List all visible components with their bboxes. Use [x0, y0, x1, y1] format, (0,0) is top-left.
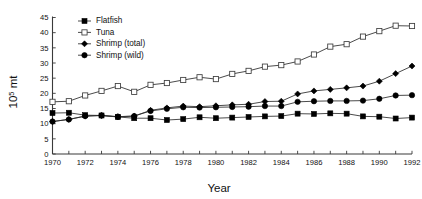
data-point	[197, 115, 202, 120]
data-point	[344, 111, 349, 116]
data-point	[279, 103, 284, 108]
y-axis-title: 105 mt	[7, 75, 20, 109]
data-point	[197, 75, 202, 80]
data-point	[311, 111, 316, 116]
x-tick-label: 1976	[142, 158, 159, 167]
data-point	[295, 111, 300, 116]
data-point	[328, 44, 333, 49]
data-point	[115, 83, 120, 88]
x-tick-label: 1974	[109, 158, 126, 167]
data-point	[360, 114, 365, 119]
data-point	[344, 98, 349, 103]
data-point	[409, 92, 414, 97]
data-point	[181, 105, 186, 110]
data-point	[246, 104, 251, 109]
legend-label: Flatfish	[96, 16, 123, 25]
legend-label: Tuna	[96, 28, 115, 37]
y-tick-label: 40	[40, 28, 48, 37]
data-point	[377, 29, 382, 34]
data-point	[328, 111, 333, 116]
data-point	[197, 105, 202, 110]
data-point	[393, 93, 398, 98]
data-point	[262, 114, 267, 119]
data-point	[295, 99, 300, 104]
data-point	[181, 77, 186, 82]
x-tick-label: 1978	[175, 158, 192, 167]
y-tick-label: 30	[40, 59, 48, 68]
data-point	[181, 117, 186, 122]
x-tick-label: 1986	[306, 158, 323, 167]
data-point	[213, 105, 218, 110]
x-tick-label: 1984	[273, 158, 290, 167]
data-point	[50, 111, 55, 116]
data-point	[66, 110, 71, 115]
x-tick-label: 1970	[44, 158, 61, 167]
x-axis-title: Year	[207, 182, 230, 194]
y-tick-label: 35	[40, 44, 48, 53]
data-point	[230, 71, 235, 76]
data-point	[132, 113, 137, 118]
data-point	[115, 114, 120, 119]
y-tick-label: 20	[40, 89, 48, 98]
y-tick-label: 25	[40, 74, 48, 83]
data-point	[344, 42, 349, 47]
data-point	[50, 99, 55, 104]
x-tick-label: 1982	[240, 158, 257, 167]
data-point	[148, 82, 153, 87]
data-point	[83, 93, 88, 98]
data-point	[393, 23, 398, 28]
data-point	[164, 80, 169, 85]
data-point	[377, 96, 382, 101]
data-point	[164, 106, 169, 111]
data-point	[360, 34, 365, 39]
chart-background	[0, 0, 422, 199]
legend-marker-filled-square-icon	[82, 19, 87, 24]
data-point	[230, 115, 235, 120]
data-point	[328, 98, 333, 103]
data-point	[311, 52, 316, 57]
data-point	[230, 104, 235, 109]
y-tick-label: 15	[40, 104, 48, 113]
legend-label: Shrimp (wild)	[96, 51, 144, 60]
x-tick-label: 1972	[77, 158, 94, 167]
legend-marker-open-square-icon	[82, 30, 87, 35]
y-tick-label: 45	[40, 13, 48, 22]
data-point	[360, 98, 365, 103]
data-point	[410, 115, 415, 120]
data-point	[246, 68, 251, 73]
data-point	[295, 59, 300, 64]
data-point	[66, 117, 71, 122]
data-point	[393, 116, 398, 121]
legend-label: Shrimp (total)	[96, 39, 145, 48]
data-point	[99, 88, 104, 93]
data-point	[132, 89, 137, 94]
x-tick-label: 1992	[404, 158, 421, 167]
y-tick-label: 10	[40, 119, 48, 128]
data-point	[262, 103, 267, 108]
data-point	[213, 116, 218, 121]
data-point	[99, 113, 104, 118]
y-tick-label: 5	[44, 135, 48, 144]
data-point	[377, 114, 382, 119]
x-tick-label: 1990	[371, 158, 388, 167]
chart-figure: 051015202530354045 197019721974197619781…	[0, 0, 422, 199]
data-point	[409, 23, 414, 28]
data-point	[148, 108, 153, 113]
data-point	[262, 64, 267, 69]
data-point	[213, 76, 218, 81]
data-point	[148, 116, 153, 121]
data-point	[279, 63, 284, 68]
x-tick-label: 1988	[338, 158, 355, 167]
legend-marker-filled-circle-icon	[82, 53, 87, 58]
data-point	[311, 99, 316, 104]
data-point	[82, 113, 87, 118]
line-chart: 051015202530354045 197019721974197619781…	[0, 0, 422, 199]
data-point	[164, 118, 169, 123]
x-tick-label: 1980	[207, 158, 224, 167]
data-point	[246, 114, 251, 119]
data-point	[66, 99, 71, 104]
data-point	[50, 119, 55, 124]
data-point	[279, 114, 284, 119]
